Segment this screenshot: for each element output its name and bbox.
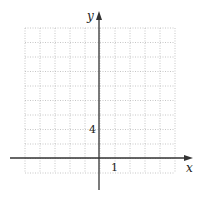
x-axis-label: x xyxy=(186,161,193,175)
coordinate-plane: y x 4 1 xyxy=(0,0,205,199)
x-tick-label: 1 xyxy=(111,161,118,174)
y-axis-label: y xyxy=(86,9,94,23)
y-tick-label: 4 xyxy=(89,123,96,136)
y-axis-arrow-icon xyxy=(96,11,102,20)
grid xyxy=(25,28,175,173)
